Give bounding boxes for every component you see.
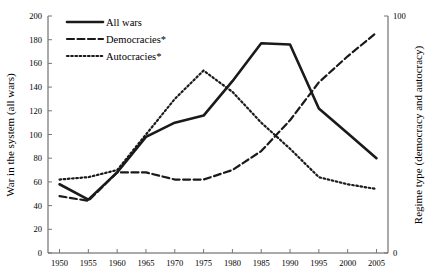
x-axis-tick-label: 2000 <box>339 258 356 268</box>
y-axis-left-tick-label: 60 <box>34 177 43 187</box>
y-axis-left-tick-label: 80 <box>34 153 43 163</box>
x-axis-tick-label: 1975 <box>195 258 212 268</box>
y-axis-left-tick-label: 20 <box>34 224 43 234</box>
x-axis-tick-label: 1980 <box>224 258 241 268</box>
x-axis-tick-label: 1990 <box>282 258 299 268</box>
y-axis-left-tick-label: 200 <box>29 11 42 21</box>
axis-group <box>48 16 388 253</box>
chart-container: 020406080100120140160180200 0100 1950195… <box>0 0 431 280</box>
x-axis-tick-label: 1960 <box>109 258 126 268</box>
y-axis-right-tick-labels: 0100 <box>393 11 406 258</box>
x-axis-tick-labels: 1950195519601965197019751980198519901995… <box>51 258 385 268</box>
y-axis-left-tick-label: 160 <box>29 58 42 68</box>
y-axis-left-tick-label: 180 <box>29 35 42 45</box>
series-line-autocracies <box>60 71 377 189</box>
y-axis-left-tick-labels: 020406080100120140160180200 <box>29 11 42 258</box>
legend-label: Autocracies* <box>106 51 161 62</box>
series-line-all-wars <box>60 43 377 199</box>
y-axis-left-tick-label: 140 <box>29 82 42 92</box>
y-axis-left-tick-label: 120 <box>29 106 42 116</box>
line-chart: 020406080100120140160180200 0100 1950195… <box>0 0 431 280</box>
x-axis-tick-label: 1970 <box>166 258 183 268</box>
chart-legend: All warsDemocracies*Autocracies* <box>67 17 166 62</box>
x-axis-tick-label: 1955 <box>80 258 97 268</box>
legend-label: Democracies* <box>106 34 166 45</box>
legend-label: All wars <box>106 17 142 28</box>
x-axis-tick-label: 1965 <box>137 258 154 268</box>
y-axis-right-tick-label: 100 <box>393 11 406 21</box>
y-axis-left-tick-label: 0 <box>38 248 42 258</box>
x-axis-tick-label: 2005 <box>368 258 385 268</box>
y-axis-right-tick-label: 0 <box>393 248 397 258</box>
y-axis-left-tick-label: 40 <box>34 201 43 211</box>
x-axis-tick-label: 1950 <box>51 258 68 268</box>
tick-marks-group <box>48 16 388 253</box>
y-axis-left-title: War in the system (all wars) <box>4 73 17 197</box>
y-axis-right-title: Regime type (democracy and autocracy) <box>412 45 425 224</box>
x-axis-tick-label: 1985 <box>253 258 270 268</box>
x-axis-tick-label: 1995 <box>310 258 327 268</box>
y-axis-left-tick-label: 100 <box>29 130 42 140</box>
